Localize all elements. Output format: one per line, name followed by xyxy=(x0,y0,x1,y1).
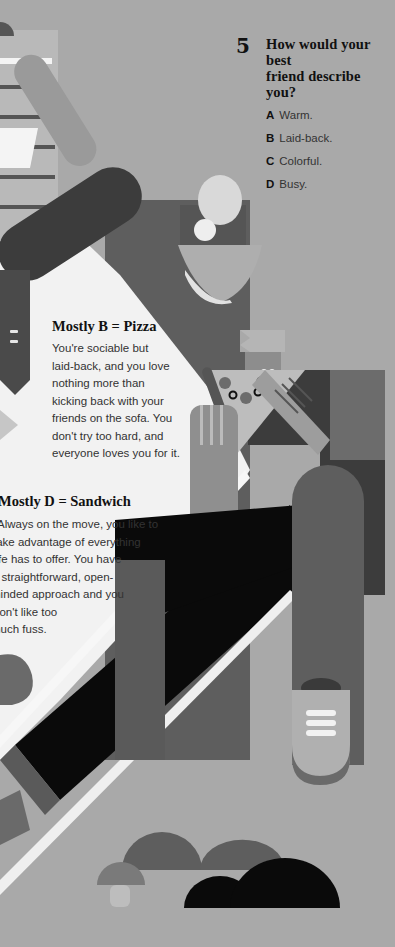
answer-options: AWarm. BLaid-back. CColorful. DBusy. xyxy=(266,108,394,200)
result-title-pizza: Mostly B = Pizza xyxy=(52,318,157,335)
option-letter: A xyxy=(266,109,274,121)
result-body-sandwich: Always on the move, you like to take adv… xyxy=(0,516,158,639)
option-label: Warm. xyxy=(279,109,312,121)
quiz-page: 5 How would your best friend describe yo… xyxy=(0,0,395,947)
option-letter: C xyxy=(266,155,274,167)
option-c[interactable]: CColorful. xyxy=(266,154,394,177)
option-b[interactable]: BLaid-back. xyxy=(266,131,394,154)
result-title-sandwich: Mostly D = Sandwich xyxy=(0,493,131,510)
option-letter: D xyxy=(266,178,274,190)
question-text: How would your best friend describe you? xyxy=(266,36,394,100)
option-label: Laid-back. xyxy=(279,132,332,144)
option-d[interactable]: DBusy. xyxy=(266,177,394,200)
option-letter: B xyxy=(266,132,274,144)
question-5: 5 How would your best friend describe yo… xyxy=(244,36,394,200)
option-a[interactable]: AWarm. xyxy=(266,108,394,131)
result-body-pizza: You're sociable but laid-back, and you l… xyxy=(52,340,180,463)
question-number: 5 xyxy=(236,34,250,58)
option-label: Busy. xyxy=(279,178,307,190)
option-label: Colorful. xyxy=(279,155,322,167)
